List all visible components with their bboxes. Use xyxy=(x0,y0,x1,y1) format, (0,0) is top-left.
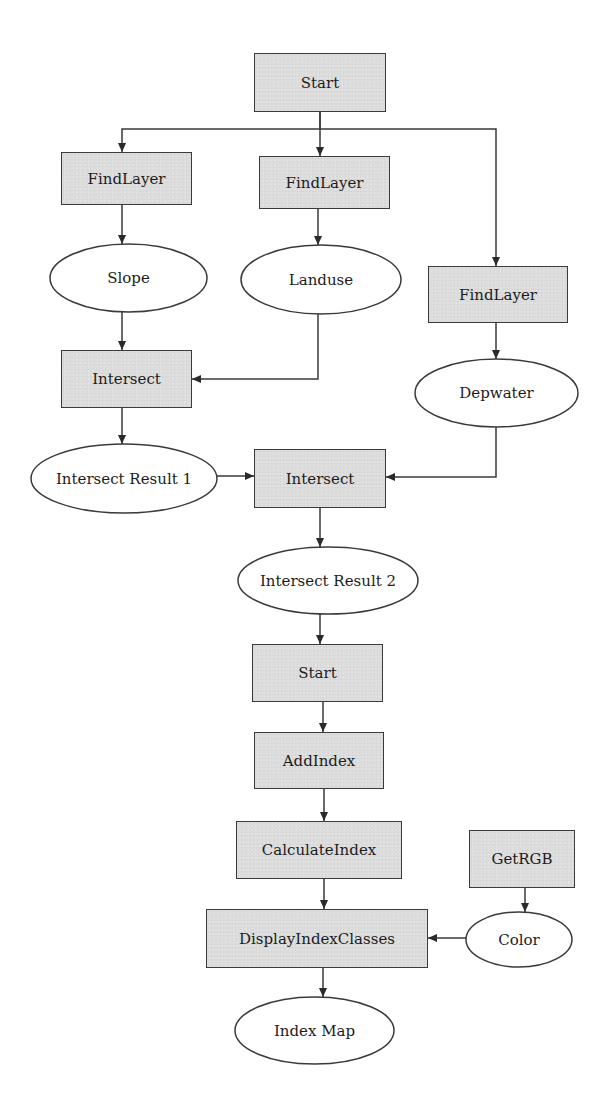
data-node-slope: Slope xyxy=(50,244,207,312)
process-node-start1: Start xyxy=(254,53,386,112)
edge-landuse-to-intersect1 xyxy=(192,314,318,379)
data-node-depwater: Depwater xyxy=(415,359,578,427)
process-node-addindex: AddIndex xyxy=(254,732,384,789)
data-node-intersect_result2: Intersect Result 2 xyxy=(238,547,418,614)
process-node-displayindexclasses: DisplayIndexClasses xyxy=(206,909,428,968)
data-node-intersect_result1: Intersect Result 1 xyxy=(31,444,217,513)
process-node-calculateindex: CalculateIndex xyxy=(236,821,402,879)
process-node-findlayer3: FindLayer xyxy=(428,266,568,323)
data-node-indexmap: Index Map xyxy=(235,997,394,1064)
data-node-color: Color xyxy=(466,912,572,967)
process-node-intersect1: Intersect xyxy=(61,350,192,408)
process-node-start2: Start xyxy=(252,644,383,702)
process-node-getrgb: GetRGB xyxy=(469,830,575,888)
process-node-findlayer1: FindLayer xyxy=(61,152,192,205)
data-node-landuse: Landuse xyxy=(241,245,401,314)
process-node-intersect2: Intersect xyxy=(254,449,386,508)
edge-depwater-to-intersect2 xyxy=(386,427,496,477)
edge-start1-to-findlayer1 xyxy=(122,112,320,152)
process-node-findlayer2: FindLayer xyxy=(259,156,390,209)
